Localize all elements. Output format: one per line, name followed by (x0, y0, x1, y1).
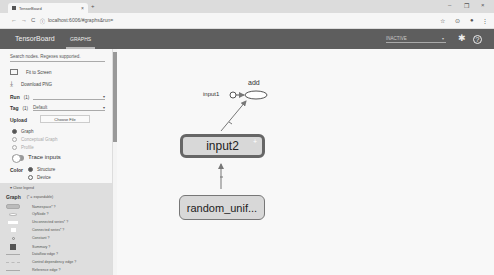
settings-icon[interactable]: ✱ (458, 33, 466, 43)
app-toolbar: TensorBoard GRAPHS INACTIVE ▾ ✱ ? (0, 29, 494, 49)
node-input2-label: input2 (206, 139, 239, 153)
radio-selected-icon (28, 167, 33, 172)
radio-unselected-icon (28, 175, 33, 180)
radio-unselected-icon (12, 137, 17, 142)
profile-icon[interactable]: ● (470, 17, 474, 23)
graph-canvas[interactable]: add input1 input2 + random_unif... (117, 49, 494, 275)
browser-tab[interactable]: TensorBoard × (8, 3, 88, 13)
trace-inputs-label: Trace inputs (28, 154, 61, 160)
dataflow-edge-icon (6, 254, 20, 255)
fit-screen-icon (10, 69, 18, 75)
unconnected-series-icon (6, 221, 20, 224)
tag-count: (1) (23, 106, 29, 111)
choose-file-button[interactable]: Choose File (40, 115, 90, 123)
chevron-down-icon: ▾ (103, 105, 105, 110)
maximize-button[interactable]: ❐ (464, 2, 469, 9)
reload-icon[interactable]: C (31, 17, 35, 23)
tag-row: Tag (1) (10, 105, 28, 111)
opnode-icon (6, 213, 20, 216)
legend-item: OpNode ? (6, 212, 48, 216)
legend-item: Constant ? (6, 236, 49, 240)
run-select[interactable]: ▾ (33, 94, 105, 100)
node-add-label[interactable]: add (248, 79, 260, 86)
url-field[interactable]: localhost:6006/#graphs&run= (48, 17, 113, 23)
radio-graph[interactable]: Graph (12, 129, 34, 134)
address-bar-row: ← → C ⓘ localhost:6006/#graphs&run= ☆ ⊙ … (0, 13, 494, 29)
legend-subtitle: (* = expandable) (27, 195, 53, 199)
back-icon[interactable]: ← (11, 17, 17, 23)
minimize-button[interactable]: – (448, 2, 451, 8)
legend-header: Graph (* = expandable) (6, 194, 53, 200)
close-legend-button[interactable]: ▾ Close legend (10, 186, 34, 190)
extension-icon[interactable]: ⊙ (455, 17, 460, 24)
color-label: Color (10, 167, 23, 173)
legend-item: Reference edge ? (6, 268, 61, 272)
node-random-uniform-label: random_unif... (187, 202, 257, 214)
tag-select[interactable]: Default ▾ (33, 105, 105, 111)
legend-item: Dataflow edge ? (6, 252, 58, 256)
tab-close-icon[interactable]: × (81, 5, 84, 11)
expand-plus-icon[interactable]: + (253, 138, 257, 145)
plugin-selector-value: INACTIVE (386, 36, 407, 41)
color-structure-label: Structure (37, 167, 55, 172)
node-random-uniform[interactable]: random_unif... (179, 195, 265, 220)
radio-selected-icon (12, 129, 17, 134)
chevron-down-icon: ▾ (103, 94, 105, 99)
upload-row: Upload (10, 117, 31, 123)
legend-label: Dataflow edge ? (32, 252, 58, 256)
node-input1-label[interactable]: input1 (203, 91, 219, 97)
tab-title: TensorBoard (19, 6, 42, 11)
node-input2[interactable]: input2 + (180, 134, 265, 158)
forward-icon[interactable]: → (21, 17, 27, 23)
legend-item: Unconnected series* ? (6, 220, 68, 224)
download-png-button[interactable]: ⤓ Download PNG (10, 80, 52, 88)
summary-icon (6, 244, 20, 250)
download-png-label: Download PNG (21, 82, 52, 87)
legend-item: Control dependency edge ? (6, 260, 76, 264)
radio-graph-label: Graph (21, 129, 34, 134)
constant-icon (6, 237, 20, 240)
new-tab-button[interactable]: + (91, 3, 95, 9)
fit-to-screen-label: Fit to Screen (26, 70, 52, 75)
radio-color-structure[interactable]: Structure (28, 167, 55, 172)
tensorboard-favicon-icon (12, 6, 16, 10)
tab-graphs[interactable]: GRAPHS (70, 36, 91, 42)
radio-conceptual-graph[interactable]: Conceptual Graph (12, 137, 58, 142)
legend-label: OpNode ? (32, 212, 48, 216)
download-icon: ⤓ (10, 80, 13, 88)
control-edge-icon (6, 262, 20, 263)
app-title: TensorBoard (15, 35, 55, 42)
legend-label: Summary ? (32, 245, 50, 249)
legend-panel: ▾ Close legend Graph (* = expandable) Na… (0, 183, 113, 275)
graph-edges (117, 49, 494, 275)
legend-label: Reference edge ? (32, 268, 61, 272)
connected-series-icon (6, 228, 20, 232)
legend-item: Namespace* ? (6, 204, 56, 209)
close-window-button[interactable]: × (481, 2, 485, 8)
legend-item: Summary ? (6, 244, 50, 250)
run-count: (1) (24, 95, 30, 100)
legend-title: Graph (6, 194, 21, 200)
radio-unselected-icon (12, 145, 17, 150)
plugin-selector[interactable]: INACTIVE ▾ (386, 36, 446, 43)
tag-label: Tag (10, 105, 19, 111)
color-row: Color (10, 167, 27, 173)
trace-inputs-toggle[interactable] (12, 155, 24, 161)
fit-to-screen-button[interactable]: Fit to Screen (10, 69, 52, 75)
radio-profile-label: Profile (21, 145, 34, 150)
sidebar: Search nodes. Regexes supported. Fit to … (0, 49, 113, 275)
menu-icon[interactable]: ⋮ (482, 17, 488, 24)
tag-select-value: Default (33, 105, 47, 110)
help-icon[interactable]: ? (473, 35, 482, 44)
star-icon[interactable]: ☆ (440, 17, 445, 24)
search-input[interactable]: Search nodes. Regexes supported. (10, 54, 105, 62)
color-device-label: Device (37, 175, 51, 180)
site-info-icon[interactable]: ⓘ (40, 17, 45, 24)
legend-label: Connected series* ? (32, 228, 64, 232)
legend-item: Connected series* ? (6, 228, 64, 232)
radio-profile[interactable]: Profile (12, 145, 34, 150)
legend-label: Control dependency edge ? (32, 260, 76, 264)
radio-color-device[interactable]: Device (28, 175, 51, 180)
legend-label: Unconnected series* ? (32, 220, 68, 224)
chevron-down-icon: ▾ (442, 36, 444, 41)
